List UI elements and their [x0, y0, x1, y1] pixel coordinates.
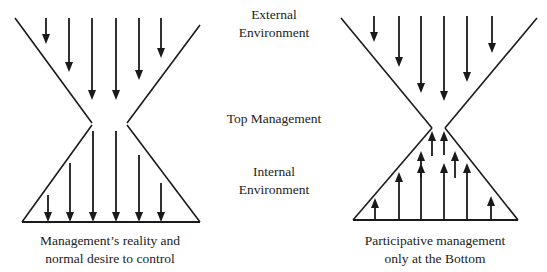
left-caption-line-1: Management’s reality and	[10, 232, 210, 250]
outline-bottom-right	[445, 128, 518, 220]
arrow-down-icon	[89, 131, 97, 222]
arrow-down-icon	[395, 16, 403, 67]
external-label-line-2: Environment	[218, 24, 330, 42]
arrow-down-icon	[88, 18, 96, 100]
left-caption-line-2: normal desire to control	[10, 250, 210, 268]
arrow-up-icon	[440, 131, 448, 155]
right-hourglass-figure	[341, 16, 537, 220]
outline-top-left	[15, 18, 92, 123]
external-label-line-1: External	[218, 6, 330, 24]
arrow-up-icon	[440, 163, 448, 220]
left-figure-caption: Management’s reality and normal desire t…	[10, 232, 210, 268]
arrow-down-icon	[440, 16, 448, 101]
arrow-down-icon	[66, 163, 74, 222]
arrow-down-icon	[44, 195, 52, 222]
arrow-down-icon	[417, 16, 425, 93]
arrow-down-icon	[112, 18, 120, 100]
arrow-up-icon	[428, 131, 436, 156]
outline-bottom-left	[22, 125, 92, 222]
outline-top-right	[445, 18, 537, 128]
arrow-up-icon	[395, 172, 403, 220]
arrow-down-icon	[157, 183, 165, 222]
external-environment-label: External Environment	[218, 6, 330, 42]
arrow-up-icon	[487, 196, 495, 220]
left-hourglass-figure	[15, 18, 200, 222]
arrow-down-icon	[135, 18, 143, 80]
outline-top-left	[341, 18, 432, 128]
arrow-down-icon	[157, 18, 165, 58]
right-figure-caption: Participative management only at the Bot…	[335, 232, 535, 268]
right-caption-line-1: Participative management	[335, 232, 535, 250]
right-caption-line-2: only at the Bottom	[335, 250, 535, 268]
arrow-down-icon	[42, 18, 50, 44]
arrow-down-icon	[112, 131, 120, 222]
arrow-up-icon	[451, 151, 459, 178]
arrow-down-icon	[370, 16, 378, 42]
arrow-down-icon	[463, 16, 471, 82]
arrow-down-icon	[135, 155, 143, 222]
arrow-up-icon	[463, 163, 471, 220]
arrow-down-icon	[488, 16, 496, 53]
internal-label-line-1: Internal	[218, 163, 330, 181]
top-management-label: Top Management	[208, 110, 340, 128]
arrow-up-icon	[371, 198, 379, 220]
top-management-text: Top Management	[208, 110, 340, 128]
arrow-up-icon	[417, 151, 425, 178]
internal-environment-label: Internal Environment	[218, 163, 330, 199]
internal-label-line-2: Environment	[218, 181, 330, 199]
arrow-down-icon	[65, 18, 73, 72]
outline-bottom-right	[127, 125, 200, 222]
